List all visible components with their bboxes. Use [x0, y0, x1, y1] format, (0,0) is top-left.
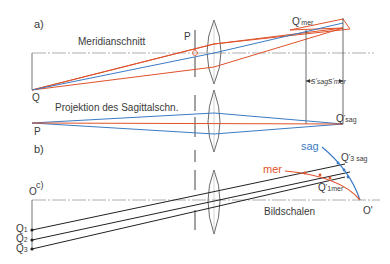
image-Q1-mer-label: Q'1mer	[318, 183, 343, 193]
point-Q-a: Q	[32, 93, 40, 103]
projektion-title: Projektion des Sagittalschn.	[55, 103, 178, 113]
distance-s-mer-label: s'mer	[328, 77, 346, 86]
image-Q3-sag-label: Q'3sag	[341, 153, 368, 163]
ray-sag-lower	[32, 123, 343, 134]
distance-s-sag-label: s'sag	[311, 77, 328, 86]
bildschalen-title: Bildschalen	[264, 207, 315, 217]
panel-b-label: b)	[34, 144, 44, 155]
meridianschnitt-title: Meridianschnitt	[78, 37, 145, 47]
ray-sag-upper	[32, 113, 343, 124]
image-Q-mer-label: Q'mer	[292, 17, 313, 27]
image-O-prime: O'	[363, 206, 373, 216]
point-P-b: P	[34, 127, 41, 137]
panel-a-label: a)	[34, 19, 44, 30]
point-Q3: Q3	[16, 244, 28, 254]
image-Q-sag-label: Q'sag	[336, 114, 357, 124]
chief-ray-1	[32, 164, 345, 230]
panel-c-label: c)	[36, 181, 44, 190]
point-P-a: P	[184, 32, 191, 42]
panel-b	[32, 90, 343, 152]
mer-shell-label: mer	[263, 164, 282, 175]
sag-shell-label: sag	[301, 141, 319, 152]
ray-mer-center-b	[32, 123, 343, 124]
panel-c	[30, 147, 380, 251]
aberration-diagram	[0, 0, 390, 264]
